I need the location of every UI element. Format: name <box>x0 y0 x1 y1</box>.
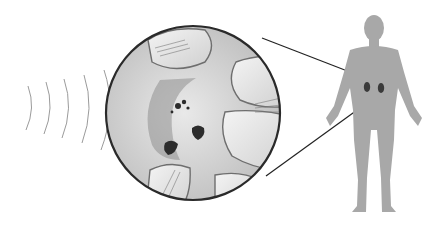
magnified-kidney-view <box>106 4 290 215</box>
human-figure <box>326 15 422 212</box>
lithotripsy-illustration <box>0 0 448 230</box>
